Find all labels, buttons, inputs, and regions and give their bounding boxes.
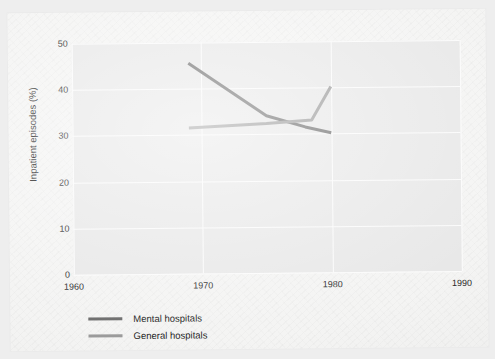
series-line-2 [189,86,332,128]
legend-item-label: Mental hospitals [133,312,202,324]
legend-item: General hospitals [88,325,348,344]
series-lines [7,9,488,352]
chart-legend: Mental hospitalsGeneral hospitals [88,308,348,344]
line-swatch-icon [88,317,122,320]
line-chart-figure: 01020304050 1960197019801990 Inpatient e… [7,9,488,352]
legend-item-label: General hospitals [133,329,207,341]
line-swatch-icon [88,334,122,337]
scanned-page: 01020304050 1960197019801990 Inpatient e… [7,9,488,352]
